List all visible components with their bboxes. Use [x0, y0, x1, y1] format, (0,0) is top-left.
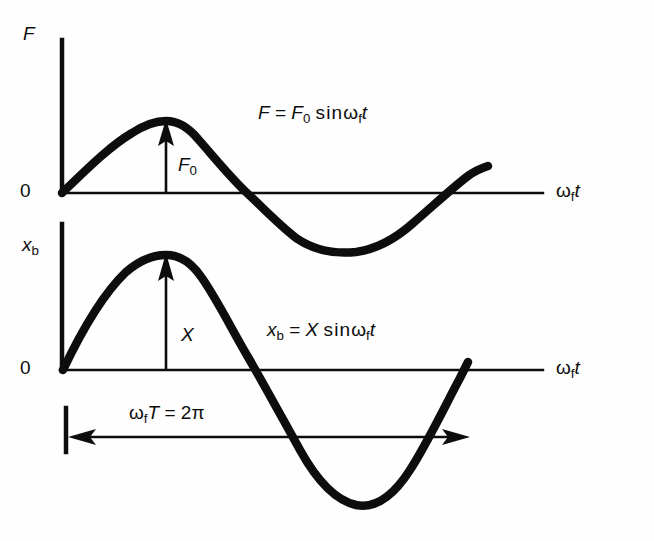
waveform-diagram [0, 0, 654, 541]
upper-x-axis-label: ωft [556, 181, 580, 203]
lower-equation: xb = X sinωft [267, 320, 375, 342]
upper-sine-curve [62, 121, 488, 253]
lower-x-axis-label: ωft [556, 358, 580, 380]
upper-equation: F = F0 sinωft [258, 103, 367, 125]
upper-amplitude-label: F0 [178, 155, 197, 177]
lower-y-axis-label: xb [22, 235, 39, 257]
period-annotation-label: ωfT = 2π [129, 403, 205, 425]
lower-amplitude-label: X [181, 325, 194, 344]
lower-sine-curve [63, 255, 468, 506]
upper-origin-label: 0 [20, 181, 31, 200]
figure-root: F 0 ωft F0 F = F0 sinωft xb 0 ωft X xb =… [0, 0, 654, 541]
upper-panel [60, 40, 543, 253]
lower-origin-label: 0 [20, 358, 31, 377]
lower-panel [60, 224, 543, 506]
upper-y-axis-label: F [23, 24, 35, 43]
